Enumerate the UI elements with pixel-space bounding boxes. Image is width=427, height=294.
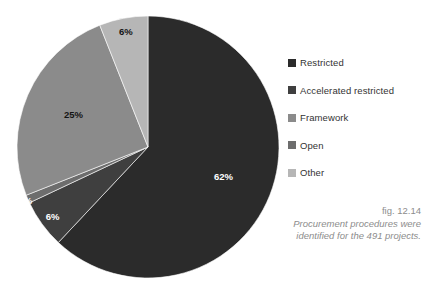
pie-chart-svg: 62%6%1%25%6%: [14, 10, 282, 284]
pie-slice-value-label: 6%: [119, 26, 133, 37]
legend-item-label: Other: [300, 167, 324, 178]
chart-legend: RestrictedAccelerated restrictedFramewor…: [288, 56, 427, 194]
pie-slice-value-label: 62%: [214, 171, 234, 182]
pie-slice-value-label: 6%: [46, 211, 60, 222]
figure-caption: fig. 12.14 Procurement procedures were i…: [287, 205, 421, 242]
legend-swatch-icon: [288, 141, 296, 149]
legend-swatch-icon: [288, 59, 296, 67]
legend-item-label: Open: [300, 140, 324, 151]
figure-caption-text: Procurement procedures were identified f…: [287, 218, 421, 242]
figure-number: fig. 12.14: [287, 205, 421, 216]
pie-slices-group: [17, 16, 279, 278]
legend-item-other[interactable]: Other: [288, 166, 427, 179]
legend-item-restricted[interactable]: Restricted: [288, 56, 427, 69]
legend-item-framework[interactable]: Framework: [288, 111, 427, 124]
pie-slice-value-label: 1%: [19, 195, 33, 206]
legend-swatch-icon: [288, 114, 296, 122]
pie-slice-value-label: 25%: [64, 109, 84, 120]
pie-chart-area: 62%6%1%25%6%: [14, 10, 282, 284]
legend-item-label: Framework: [300, 112, 348, 123]
legend-swatch-icon: [288, 169, 296, 177]
figure-pie-chart: 62%6%1%25%6% RestrictedAccelerated restr…: [0, 0, 427, 294]
legend-item-accelerated-restricted[interactable]: Accelerated restricted: [288, 84, 427, 97]
legend-swatch-icon: [288, 86, 296, 94]
legend-item-label: Restricted: [300, 57, 344, 68]
legend-item-open[interactable]: Open: [288, 139, 427, 152]
legend-item-label: Accelerated restricted: [300, 85, 394, 96]
